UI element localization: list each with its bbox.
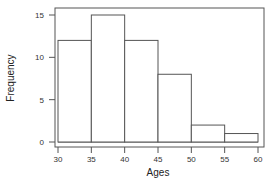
x-tick-label: 60 xyxy=(254,155,263,164)
histogram-bar xyxy=(158,74,191,142)
x-tick-label: 50 xyxy=(187,155,196,164)
y-tick-label: 15 xyxy=(35,11,44,20)
y-axis-label: Frequency xyxy=(5,54,16,101)
x-tick-label: 35 xyxy=(87,155,96,164)
bars-group xyxy=(58,15,258,142)
x-tick-label: 55 xyxy=(220,155,229,164)
x-axis-label: Ages xyxy=(147,167,170,178)
x-axis: 30354045505560 xyxy=(54,147,263,164)
x-tick-label: 30 xyxy=(54,155,63,164)
histogram-bar xyxy=(225,134,258,142)
y-tick-label: 5 xyxy=(40,96,45,105)
histogram-bar xyxy=(191,125,224,142)
histogram-bar xyxy=(125,40,158,142)
histogram-bar xyxy=(91,15,124,142)
y-tick-label: 10 xyxy=(35,53,44,62)
histogram-chart: 051015 30354045505560 Ages Frequency xyxy=(0,0,278,188)
x-tick-label: 40 xyxy=(120,155,129,164)
x-tick-label: 45 xyxy=(154,155,163,164)
histogram-bar xyxy=(58,40,91,142)
y-axis: 051015 xyxy=(35,11,55,147)
y-tick-label: 0 xyxy=(40,138,45,147)
